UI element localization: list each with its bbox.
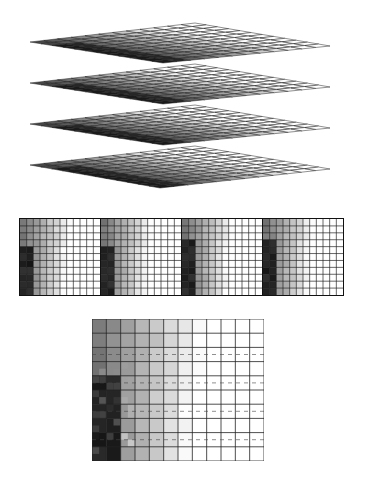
zoomed-grid-panel (92, 319, 264, 461)
grid-panel-strip (19, 218, 344, 296)
layer-1 (30, 23, 330, 63)
layer-3 (30, 105, 330, 145)
grid-panel-1 (20, 219, 101, 295)
grid-panel-4 (263, 219, 343, 295)
grid-panel-3 (182, 219, 263, 295)
layer-4 (30, 146, 330, 188)
stacked-grid-layers (0, 0, 368, 200)
layer-2 (30, 64, 330, 104)
grid-panel-2 (101, 219, 182, 295)
